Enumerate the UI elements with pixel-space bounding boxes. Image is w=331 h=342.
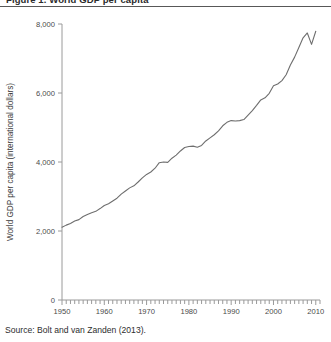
- data-line-world-gdp-per-capita: [62, 31, 316, 227]
- y-axis-tick-label: 6,000: [36, 89, 55, 98]
- source-note: Source: Bolt and van Zanden (2013).: [5, 325, 146, 335]
- y-axis-title: World GDP per capita (international doll…: [6, 83, 15, 241]
- y-axis-tick-label: 4,000: [36, 158, 55, 167]
- title-divider: [0, 6, 331, 7]
- x-axis-tick-label: 1980: [180, 307, 197, 316]
- x-axis-tick-label: 1960: [96, 307, 113, 316]
- chart-container: 02,0004,0006,0008,000 195019601970198019…: [0, 8, 331, 318]
- y-axis-tick-label: 8,000: [36, 20, 55, 29]
- gdp-per-capita-line-chart: 02,0004,0006,0008,000 195019601970198019…: [0, 8, 331, 318]
- data-series-world-gdp: [62, 31, 316, 227]
- x-axis-tick-label: 1950: [54, 307, 71, 316]
- x-axis-tick-label: 2010: [307, 307, 324, 316]
- y-axis-tick-label: 2,000: [36, 227, 55, 236]
- y-axis: 02,0004,0006,0008,000: [36, 20, 62, 305]
- x-axis-tick-label: 1970: [138, 307, 155, 316]
- y-axis-title-label: World GDP per capita (international doll…: [6, 83, 15, 241]
- y-axis-tick-label: 0: [51, 296, 55, 305]
- page-title: Figure 1. World GDP per capita: [6, 0, 149, 5]
- x-axis: 1950196019701980199020002010: [54, 300, 325, 316]
- x-axis-tick-label: 2000: [265, 307, 282, 316]
- x-axis-tick-label: 1990: [223, 307, 240, 316]
